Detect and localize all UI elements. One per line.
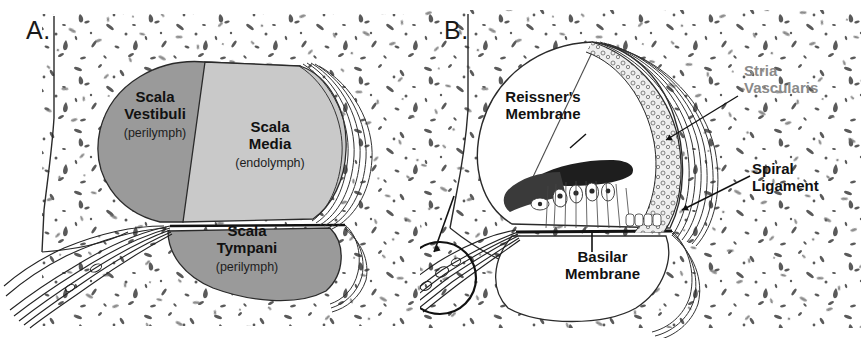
panel-a-artwork [0,0,420,338]
panel-b-artwork [420,0,861,338]
panel-a-letter: A. [26,16,51,45]
scala-media-region [183,62,346,222]
basilar-line-a [170,225,345,226]
panel-a: A. [0,0,420,338]
label-spiral-ganglion-wrapper: Spiral Ganglion [856,38,861,238]
panel-b: B. [420,0,861,338]
panel-b-letter: B. [444,16,469,45]
cochlea-figure: A. [0,0,861,338]
